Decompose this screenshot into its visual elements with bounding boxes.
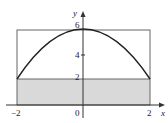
x-axis-arrow-icon (159, 103, 165, 108)
y-axis-label: y (72, 8, 77, 18)
x-tick-label-0: 0 (75, 108, 80, 118)
x-tick-label-2: 2 (147, 108, 152, 118)
x-tick-label-neg2: −2 (11, 108, 21, 118)
plot-canvas: y x 6 4 2 −2 0 2 (0, 0, 168, 123)
y-tick-label-2: 2 (75, 72, 80, 82)
y-tick-label-6: 6 (75, 20, 80, 30)
x-axis-label: x (160, 108, 165, 118)
y-axis-arrow-icon (81, 11, 86, 17)
y-tick-label-4: 4 (75, 50, 80, 60)
parabola-figure: y x 6 4 2 −2 0 2 (0, 0, 168, 123)
